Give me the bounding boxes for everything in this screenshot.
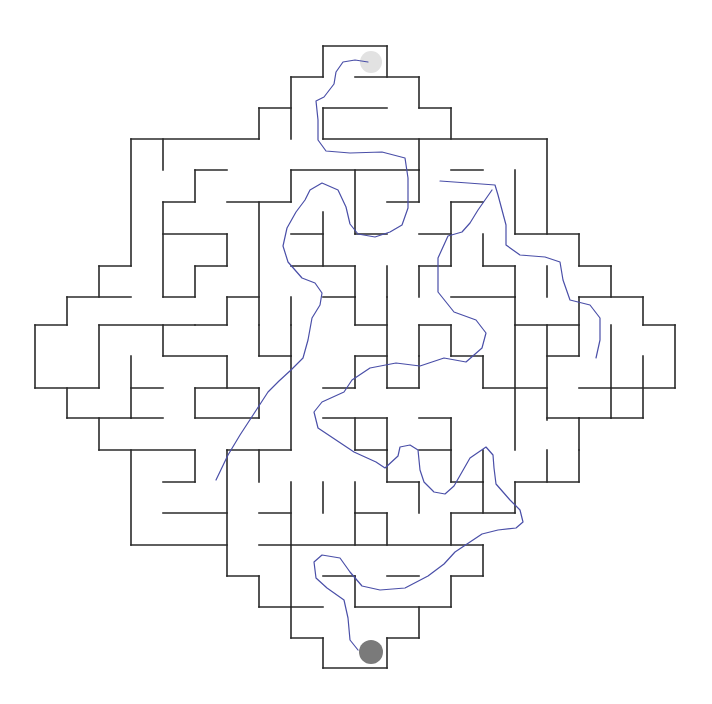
end-marker-icon[interactable] [359,640,383,664]
maze-board [0,0,712,704]
start-marker-icon[interactable] [360,51,382,73]
maze-walls [35,46,675,668]
solution-path-segment [314,190,523,650]
solution-path-segment [440,181,600,358]
maze-puzzle [0,0,712,704]
solution-path-segment [216,60,408,480]
